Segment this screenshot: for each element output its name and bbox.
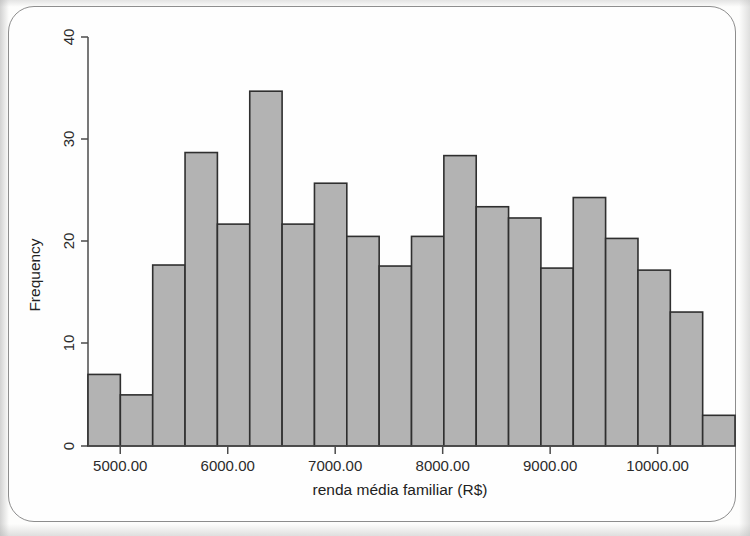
histogram-bar [703,415,735,446]
x-axis: 5000.006000.007000.008000.009000.0010000… [88,446,706,498]
y-tick-label-20: 20 [60,233,77,250]
y-axis-tick-labels: 40 30 20 10 0 [60,29,77,451]
y-axis: 40 30 20 10 0 Frequency [26,29,88,451]
x-tick-label: 10000.00 [626,457,689,474]
scanned-page: 40 30 20 10 0 Frequency 5000.006000.0070… [0,0,750,536]
histogram-bar [638,270,670,446]
histogram-bar [88,374,120,446]
x-axis-ticks [120,446,657,454]
histogram-bar [444,156,476,446]
histogram-bar [217,224,249,446]
y-tick-label-40: 40 [60,29,77,46]
histogram-bar [509,218,541,446]
x-axis-tick-labels: 5000.006000.007000.008000.009000.0010000… [93,457,689,474]
y-tick-label-10: 10 [60,335,77,352]
x-tick-label: 5000.00 [93,457,147,474]
y-tick-label-0: 0 [60,442,77,450]
histogram-bar [120,395,152,446]
histogram-bar [606,238,638,446]
histogram-bar [476,207,508,446]
x-tick-label: 7000.00 [308,457,362,474]
histogram-bar [541,268,573,446]
histogram-bar [185,153,217,446]
histogram-bar [347,236,379,446]
y-tick-label-30: 30 [60,131,77,148]
x-axis-title: renda média familiar (R$) [313,481,488,498]
x-tick-label: 9000.00 [523,457,577,474]
histogram-bar [314,183,346,446]
histogram-bar [573,198,605,446]
histogram-bar [282,224,314,446]
y-axis-title: Frequency [26,238,43,311]
histogram-bar [412,236,444,446]
histogram-bar [250,91,282,446]
x-tick-label: 6000.00 [201,457,255,474]
histogram-bars [88,91,735,446]
histogram-bar [670,312,702,446]
histogram-bar [153,265,185,446]
x-tick-label: 8000.00 [416,457,470,474]
histogram-bar [379,266,411,446]
histogram-chart: 40 30 20 10 0 Frequency 5000.006000.0070… [0,0,750,536]
y-axis-ticks [81,37,88,446]
